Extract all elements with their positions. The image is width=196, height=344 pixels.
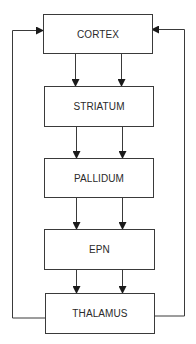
node-striatum-label: STRIATUM [73,101,124,112]
feedback-right-thalamus-cortex [152,30,185,317]
node-epn: EPN [44,229,155,270]
node-pallidum: PALLIDUM [44,158,154,198]
node-thalamus: THALAMUS [45,293,155,334]
feedback-left-thalamus-cortex [13,31,46,319]
node-thalamus-label: THALAMUS [72,308,127,319]
node-epn-label: EPN [89,244,110,255]
node-pallidum-label: PALLIDUM [74,173,124,184]
node-striatum: STRIATUM [44,86,154,127]
node-cortex: CORTEX [43,14,153,54]
node-cortex-label: CORTEX [77,29,119,40]
